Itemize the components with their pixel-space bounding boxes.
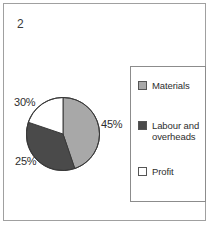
legend-item-labour-and-overheads: Labour and overheads	[138, 120, 205, 142]
pie-value-label-profit: 30%	[14, 96, 35, 108]
legend-item-materials: Materials	[138, 80, 190, 91]
pie-chart	[26, 97, 100, 171]
legend-label-labour-and-overheads: Labour and overheads	[152, 120, 205, 142]
legend-swatch-materials	[138, 81, 147, 90]
figure-frame: 2 45% 25% 30% Materials Labour and overh…	[3, 3, 206, 221]
pie-value-label-materials: 45%	[101, 118, 122, 130]
chart-legend: Materials Labour and overheads Profit	[130, 66, 206, 202]
legend-swatch-labour-and-overheads	[138, 121, 147, 130]
figure-number-label: 2	[17, 17, 24, 31]
legend-swatch-profit	[138, 167, 147, 176]
pie-value-label-labour-and-overheads: 25%	[15, 155, 36, 167]
legend-label-materials: Materials	[152, 80, 190, 91]
legend-item-profit: Profit	[138, 166, 174, 177]
legend-label-profit: Profit	[152, 166, 174, 177]
